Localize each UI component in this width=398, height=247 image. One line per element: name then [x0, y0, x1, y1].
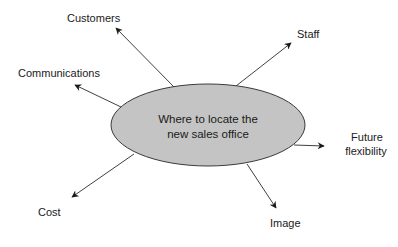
label-communications: Communications — [18, 67, 100, 79]
central-topic-line1: Where to locate the — [158, 113, 258, 125]
arrow-communications — [75, 85, 121, 107]
arrow-future-flexibility — [294, 145, 324, 146]
label-image: Image — [270, 217, 301, 229]
label-future-flexibility-line2: flexibility — [345, 145, 387, 157]
central-topic-ellipse — [111, 84, 305, 166]
arrow-cost — [72, 154, 134, 197]
label-cost: Cost — [38, 206, 61, 218]
central-topic-line2: new sales office — [167, 128, 249, 140]
arrow-staff — [236, 43, 291, 86]
diagram-canvas: Where to locate the new sales office Cus… — [0, 0, 398, 247]
mind-map-diagram: Where to locate the new sales office Cus… — [0, 0, 398, 247]
arrow-customers — [116, 28, 174, 87]
label-customers: Customers — [67, 12, 121, 24]
label-future-flexibility-line1: Future — [351, 131, 383, 143]
label-staff: Staff — [297, 28, 320, 40]
arrow-image — [247, 164, 276, 208]
